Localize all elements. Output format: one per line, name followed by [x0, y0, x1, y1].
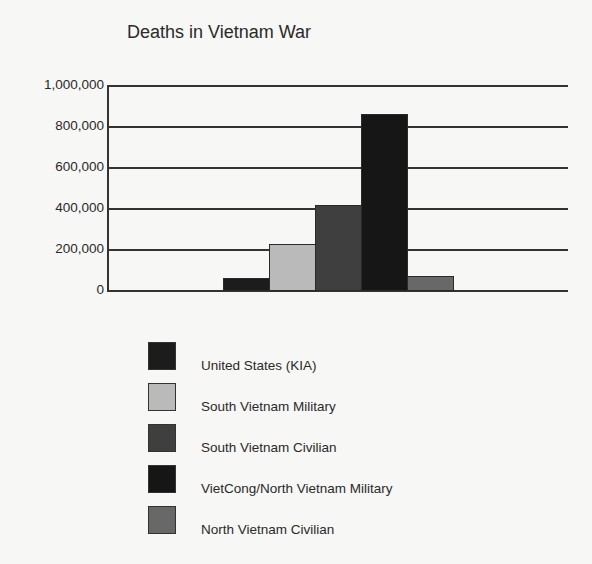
- bar-vietcong-north-vietnam-military: [361, 114, 408, 291]
- legend-swatch: [148, 383, 176, 411]
- y-axis-line: [107, 85, 109, 292]
- gridline: [108, 85, 568, 87]
- legend-label: VietCong/North Vietnam Military: [201, 481, 393, 496]
- legend-swatch: [148, 424, 176, 452]
- legend-swatch: [148, 342, 176, 370]
- y-tick-label: 0: [96, 283, 104, 297]
- legend-item: United States (KIA): [148, 342, 548, 370]
- bar-north-vietnam-civilian: [407, 276, 454, 291]
- legend-swatch: [148, 506, 176, 534]
- gridline: [108, 126, 568, 128]
- legend-item: South Vietnam Civilian: [148, 424, 548, 452]
- y-tick-label: 800,000: [55, 119, 104, 133]
- y-tick-label: 1,000,000: [44, 78, 104, 92]
- legend-label: North Vietnam Civilian: [201, 522, 334, 537]
- legend-item: South Vietnam Military: [148, 383, 548, 411]
- gridline: [108, 167, 568, 169]
- y-tick-label: 400,000: [55, 201, 104, 215]
- chart-title: Deaths in Vietnam War: [127, 22, 311, 43]
- bar-south-vietnam-military: [269, 244, 316, 291]
- bar-united-states-kia: [223, 278, 270, 291]
- y-tick-label: 200,000: [55, 242, 104, 256]
- legend-swatch: [148, 465, 176, 493]
- legend-label: South Vietnam Military: [201, 399, 336, 414]
- legend-label: South Vietnam Civilian: [201, 440, 337, 455]
- legend-label: United States (KIA): [201, 358, 317, 373]
- bar-south-vietnam-civilian: [315, 205, 362, 291]
- y-tick-label: 600,000: [55, 160, 104, 174]
- legend-item: VietCong/North Vietnam Military: [148, 465, 548, 493]
- legend-item: North Vietnam Civilian: [148, 506, 548, 534]
